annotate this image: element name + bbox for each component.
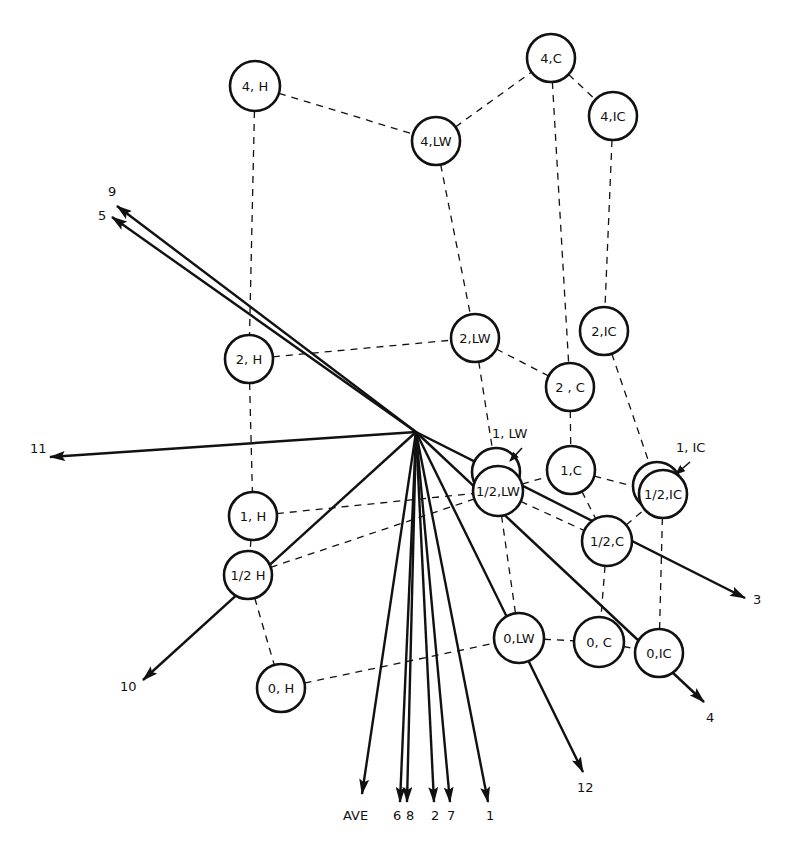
dashed-edge-4LW-4C [455,72,531,127]
vector-label-7: 7 [447,808,455,823]
vector-label-5: 5 [98,208,106,223]
node-label: 4,LW [420,134,451,149]
dashed-edge-4H-4LW [279,93,413,134]
dashed-edge-1C-halfC [582,491,596,518]
vector-label-3: 3 [753,592,761,607]
node-0ic: 0,IC [635,629,683,677]
callout-arrow [676,462,690,474]
node-halflw: 1/2,LW [473,466,523,516]
vector-arrow-5 [112,217,416,432]
node-halfic: 1/2,IC [639,470,687,518]
node-label: 1/2 H [231,568,266,583]
callout-label: 1, IC [676,440,705,455]
dashed-edge-0H-0LW [304,643,494,683]
node-2lw: 2,LW [451,314,499,362]
vector-label-10: 10 [120,679,137,694]
node-label: 1/2,IC [644,487,682,502]
node-0lw: 0,LW [494,613,544,663]
node-label: 2, H [236,352,262,367]
node-label: 2,IC [591,324,616,339]
dashed-edge-2LW-2C [496,349,548,376]
node-0h: 0, H [257,664,305,712]
node-4c: 4,C [527,34,575,82]
node-2h: 2, H [225,335,273,383]
node-4ic: 4,IC [589,92,637,140]
dashed-edges-layer [250,72,663,683]
vector-arrow-2 [416,432,434,802]
dashed-edge-halfLW-halfC [521,501,585,530]
node-1c: 1,C [547,446,595,494]
node-label: 4, H [242,79,268,94]
node-label: 4,C [540,51,561,66]
dashed-edge-halfIC-0IC [660,518,663,629]
vector-diagram: 4, H4,LW4,C4,IC2, H2,LW2,IC2 , C1,C1, H1… [0,0,788,847]
node-label: 1, H [240,509,266,524]
vector-label-6: 6 [393,808,401,823]
node-label: 4,IC [600,109,625,124]
dashed-edge-halfLW-1C [522,477,548,484]
dashed-edge-4C-4IC [569,74,596,99]
dashed-edge-halfH-0H [255,598,275,665]
node-2ic: 2,IC [580,307,628,355]
dashed-edge-halfC-halfIC [626,509,644,524]
vector-label-9: 9 [108,184,116,199]
node-label: 2,LW [459,331,490,346]
dashed-edge-0C-0IC [624,647,636,649]
vector-label-2: 2 [431,808,439,823]
vector-arrow-11 [50,432,416,457]
dashed-edge-2IC-1IC [612,354,649,464]
vector-label-ave: AVE [343,808,368,823]
node-halfc: 1/2,C [582,516,632,566]
dashed-edge-1H-halfLW [277,494,473,514]
node-label: 0, C [586,635,612,650]
node-halfh: 1/2 H [224,551,272,599]
dashed-edge-1H-halfH [250,540,251,551]
node-4h: 4, H [230,61,280,111]
node-label: 0,IC [646,646,671,661]
node-label: 1/2,C [590,534,624,549]
nodes-layer: 4, H4,LW4,C4,IC2, H2,LW2,IC2 , C1,C1, H1… [224,34,687,712]
node-label: 1/2,LW [476,484,520,499]
vector-label-12: 12 [577,780,594,795]
vector-label-11: 11 [30,441,47,456]
dashed-edge-0LW-0C [544,639,574,641]
vector-label-1: 1 [486,808,494,823]
node-4lw: 4,LW [412,117,460,165]
callout-label: 1, LW [492,426,528,441]
vector-arrow-10 [143,432,416,680]
dashed-edge-2H-1H [250,383,253,492]
node-label: 2 , C [555,380,585,395]
vector-arrow-7 [416,432,450,802]
vector-label-8: 8 [406,808,414,823]
node-label: 1,C [560,463,581,478]
vector-arrow-9 [117,206,416,432]
dashed-edge-4H-2H [250,111,255,335]
node-2c: 2 , C [546,363,594,411]
dashed-edge-4IC-2IC [605,140,612,307]
node-label: 0, H [268,681,294,696]
dashed-edge-4LW-2LW [441,165,471,315]
dashed-edge-halfLW-0LW [502,516,516,614]
node-label: 0,LW [503,631,534,646]
node-1h: 1, H [229,492,277,540]
dashed-edge-halfH-halfLW [271,499,475,567]
dashed-edge-2LW-1LW [479,362,493,449]
node-0c: 0, C [574,617,624,667]
vector-label-4: 4 [706,710,714,725]
dashed-edge-4C-2C [552,82,568,363]
